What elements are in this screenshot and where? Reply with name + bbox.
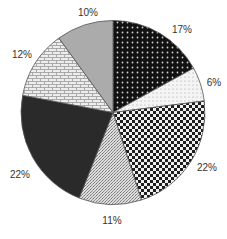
slice-label: 6%: [207, 77, 221, 88]
slice-label: 22%: [197, 162, 217, 173]
slice-label: 17%: [172, 24, 192, 35]
pie-chart: [0, 0, 227, 239]
slice-label: 22%: [10, 169, 30, 180]
pie-slices: [21, 21, 205, 205]
slice-label: 10%: [78, 7, 98, 18]
slice-label: 12%: [12, 49, 32, 60]
slice-label: 11%: [102, 215, 121, 226]
